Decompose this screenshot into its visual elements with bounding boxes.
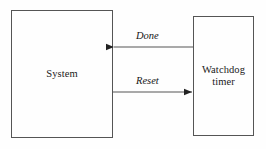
diagram-canvas: System Watchdog timer Done Reset (0, 0, 266, 149)
edge-arrows-layer (0, 0, 266, 149)
edge-reset-label: Reset (136, 75, 159, 86)
edge-done-label: Done (136, 30, 159, 41)
